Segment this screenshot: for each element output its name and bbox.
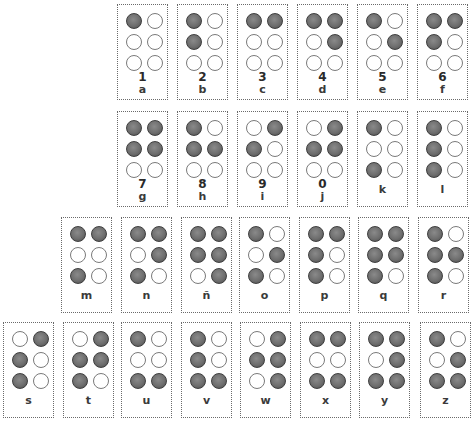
braille-cell-z: z [420,322,471,418]
dot-grid [186,13,222,71]
braille-cell-q: q [358,217,409,313]
raised-dot-icon [267,13,283,29]
flat-dot-icon [267,141,283,157]
dot-grid [246,120,282,178]
flat-dot-icon [306,55,322,71]
flat-dot-icon [147,162,163,178]
braille-cell-w: w [240,322,291,418]
raised-dot-icon [72,373,88,389]
flat-dot-icon [267,162,283,178]
raised-dot-icon [426,120,442,136]
raised-dot-icon [327,120,343,136]
braille-cell-e: 5e [357,4,408,100]
dot-grid [186,120,222,178]
raised-dot-icon [151,247,167,263]
flat-dot-icon [426,55,442,71]
raised-dot-icon [367,268,383,284]
braille-cell-h: 8h [177,111,228,207]
flat-dot-icon [447,120,463,136]
raised-dot-icon [91,226,107,242]
raised-dot-icon [306,13,322,29]
flat-dot-icon [211,352,227,368]
cell-number: 3 [238,71,287,83]
cell-letter: y [360,395,409,407]
flat-dot-icon [211,331,227,347]
flat-dot-icon [327,162,343,178]
dot-grid [126,13,162,71]
flat-dot-icon [186,55,202,71]
braille-cell-v: v [181,322,232,418]
flat-dot-icon [246,162,262,178]
raised-dot-icon [387,34,403,50]
flat-dot-icon [330,352,346,368]
braille-cell-j: 0j [297,111,348,207]
cell-letter: i [238,191,287,203]
raised-dot-icon [190,352,206,368]
flat-dot-icon [91,247,107,263]
flat-dot-icon [388,268,404,284]
dot-grid [190,331,226,389]
raised-dot-icon [426,34,442,50]
raised-dot-icon [366,162,382,178]
raised-dot-icon [426,141,442,157]
flat-dot-icon [70,247,86,263]
dot-grid [249,331,285,389]
raised-dot-icon [147,120,163,136]
braille-cell-n-tilde: ñ [181,217,232,313]
flat-dot-icon [207,162,223,178]
raised-dot-icon [12,352,28,368]
raised-dot-icon [389,331,405,347]
raised-dot-icon [186,141,202,157]
raised-dot-icon [130,268,146,284]
flat-dot-icon [387,13,403,29]
raised-dot-icon [130,226,146,242]
raised-dot-icon [248,226,264,242]
cell-letter: w [241,395,290,407]
raised-dot-icon [147,141,163,157]
raised-dot-icon [126,120,142,136]
braille-cell-n: n [121,217,172,313]
raised-dot-icon [211,226,227,242]
dot-grid [72,331,108,389]
cell-letter: c [238,84,287,96]
raised-dot-icon [388,247,404,263]
flat-dot-icon [306,120,322,136]
dot-grid [130,226,166,284]
flat-dot-icon [269,226,285,242]
raised-dot-icon [389,373,405,389]
dot-grid [366,13,402,71]
raised-dot-icon [330,373,346,389]
raised-dot-icon [190,247,206,263]
raised-dot-icon [388,226,404,242]
flat-dot-icon [126,34,142,50]
dot-grid [130,331,166,389]
raised-dot-icon [427,226,443,242]
raised-dot-icon [211,268,227,284]
raised-dot-icon [70,226,86,242]
raised-dot-icon [269,247,285,263]
cell-letter: q [359,290,408,302]
dot-grid [12,331,48,389]
flat-dot-icon [448,226,464,242]
flat-dot-icon [366,55,382,71]
raised-dot-icon [429,373,445,389]
flat-dot-icon [207,13,223,29]
dot-grid [367,226,403,284]
cell-number: 9 [238,178,287,190]
braille-cell-y: y [359,322,410,418]
flat-dot-icon [151,331,167,347]
braille-cell-o: o [239,217,290,313]
dot-grid [368,331,404,389]
dot-grid [426,120,462,178]
raised-dot-icon [366,13,382,29]
flat-dot-icon [329,268,345,284]
flat-dot-icon [309,352,325,368]
raised-dot-icon [72,352,88,368]
flat-dot-icon [447,34,463,50]
raised-dot-icon [211,373,227,389]
flat-dot-icon [447,141,463,157]
dot-grid [309,331,345,389]
flat-dot-icon [130,247,146,263]
cell-letter: l [418,184,467,196]
braille-cell-c: 3c [237,4,288,100]
